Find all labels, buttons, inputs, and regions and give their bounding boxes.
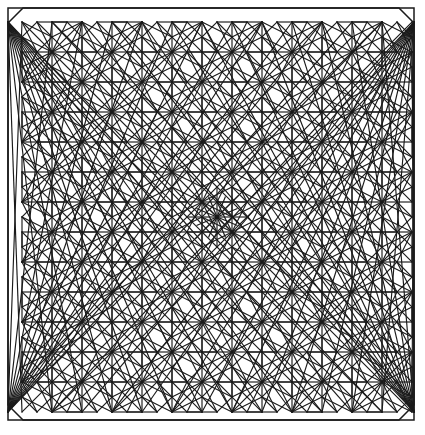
pattern-canvas [0,0,425,435]
geometric-pattern-figure [0,0,425,435]
